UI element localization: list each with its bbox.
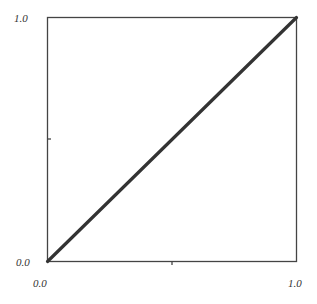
x-label-left: 0.0 bbox=[33, 277, 47, 289]
diagonal-line bbox=[48, 18, 297, 262]
chart: 1.0 0.0 0.0 1.0 bbox=[0, 0, 317, 304]
x-label-right: 1.0 bbox=[288, 277, 302, 289]
y-label-top: 1.0 bbox=[14, 12, 28, 24]
y-label-bottom: 0.0 bbox=[16, 256, 30, 268]
